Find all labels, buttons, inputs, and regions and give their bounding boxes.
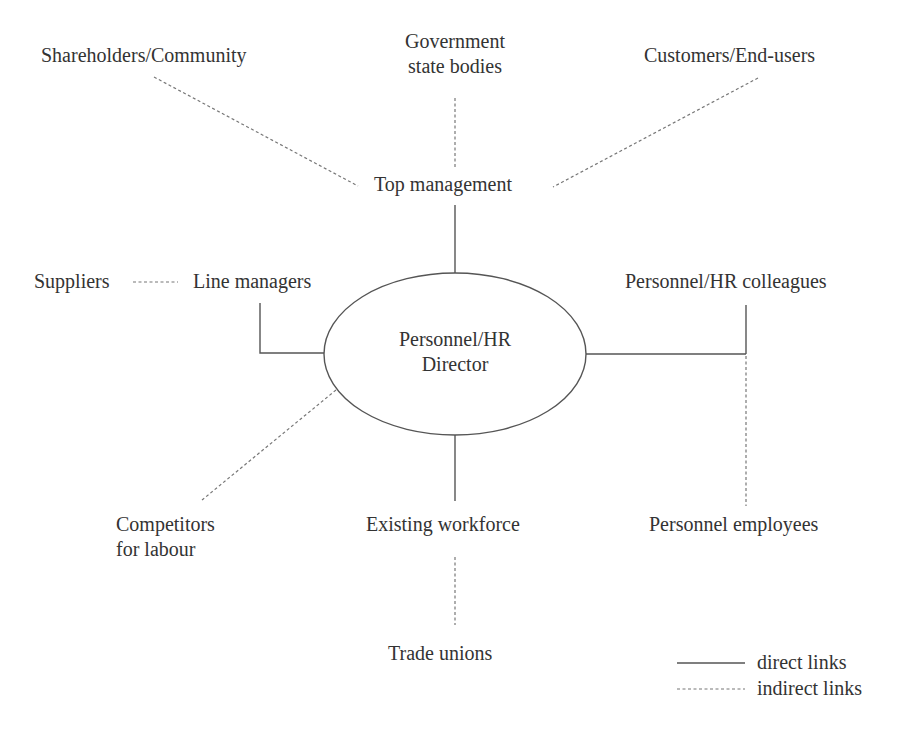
node-hr-colleagues: Personnel/HR colleagues xyxy=(625,269,827,294)
node-customers: Customers/End-users xyxy=(644,43,815,68)
node-existing-workforce: Existing workforce xyxy=(366,512,520,537)
center-node-label: Personnel/HR Director xyxy=(375,327,535,377)
node-personnel-employees: Personnel employees xyxy=(649,512,818,537)
legend-direct-label: direct links xyxy=(757,650,846,675)
node-top-management: Top management xyxy=(374,172,512,197)
link-shareholders xyxy=(154,77,358,186)
node-line-managers: Line managers xyxy=(193,269,311,294)
node-competitors: Competitors for labour xyxy=(116,512,215,562)
center-node-line1: Personnel/HR xyxy=(375,327,535,352)
link-customers xyxy=(553,78,758,187)
legend-indirect-label: indirect links xyxy=(757,676,862,701)
link-competitors xyxy=(202,390,336,500)
node-trade-unions: Trade unions xyxy=(388,641,492,666)
node-government-line2: state bodies xyxy=(395,54,515,79)
node-government-line1: Government xyxy=(395,29,515,54)
link-line-managers xyxy=(260,303,324,353)
node-competitors-line1: Competitors xyxy=(116,512,215,537)
node-shareholders: Shareholders/Community xyxy=(41,43,247,68)
node-government: Government state bodies xyxy=(395,29,515,79)
center-node-line2: Director xyxy=(375,352,535,377)
node-suppliers: Suppliers xyxy=(34,269,110,294)
node-competitors-line2: for labour xyxy=(116,537,215,562)
